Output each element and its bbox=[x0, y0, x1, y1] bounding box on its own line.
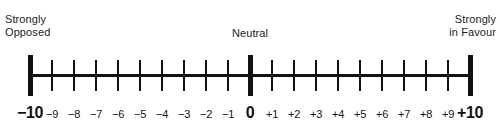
tick-minor[interactable] bbox=[315, 60, 317, 91]
tick-minor[interactable] bbox=[227, 60, 229, 91]
tick-label[interactable]: +10 bbox=[450, 104, 490, 122]
tick-minor[interactable] bbox=[359, 60, 361, 91]
tick-minor[interactable] bbox=[161, 60, 163, 91]
tick-minor[interactable] bbox=[425, 60, 427, 91]
tick-minor[interactable] bbox=[403, 60, 405, 91]
tick-minor[interactable] bbox=[95, 60, 97, 91]
tick-minor[interactable] bbox=[205, 60, 207, 91]
tick-minor[interactable] bbox=[337, 60, 339, 91]
tick-minor[interactable] bbox=[183, 60, 185, 91]
tick-minor[interactable] bbox=[381, 60, 383, 91]
tick-major[interactable] bbox=[28, 55, 33, 96]
tick-minor[interactable] bbox=[271, 60, 273, 91]
tick-minor[interactable] bbox=[51, 60, 53, 91]
tick-minor[interactable] bbox=[447, 60, 449, 91]
rating-scale-widget: Strongly Opposed Neutral Strongly in Fav… bbox=[0, 0, 500, 135]
tick-minor[interactable] bbox=[139, 60, 141, 91]
tick-minor[interactable] bbox=[117, 60, 119, 91]
scale-axis: −10−9−8−7−6−5−4−3−2−10+1+2+3+4+5+6+7+8+9… bbox=[0, 0, 500, 135]
tick-major[interactable] bbox=[248, 55, 253, 96]
tick-minor[interactable] bbox=[293, 60, 295, 91]
tick-minor[interactable] bbox=[73, 60, 75, 91]
tick-major[interactable] bbox=[468, 55, 473, 96]
